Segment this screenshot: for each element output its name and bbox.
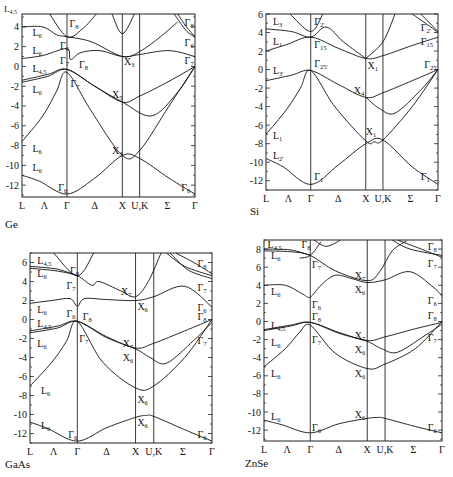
y-tick-label: -12 xyxy=(248,425,261,436)
y-tick-label: -8 xyxy=(19,390,27,401)
panel-caption-znse: ZnSe xyxy=(245,457,268,469)
plot-frame xyxy=(264,240,442,441)
band-curve xyxy=(314,240,341,246)
symmetry-point-label: L6 xyxy=(271,411,281,423)
symmetry-point-label: Γ1 xyxy=(421,171,430,183)
y-tick-label: 6 xyxy=(256,262,261,273)
symmetry-point-label: Γ15 xyxy=(421,36,433,48)
band-curve xyxy=(30,415,212,441)
x-tick-label: L xyxy=(261,444,267,455)
y-tick-label: -2 xyxy=(19,333,27,344)
panel-caption-gaas: GaAs xyxy=(5,458,30,470)
band-curve xyxy=(176,253,212,274)
y-tick-label: 4 xyxy=(14,21,19,32)
symmetry-point-label: X6 xyxy=(123,352,134,364)
x-tick-label: X xyxy=(364,444,372,455)
y-tick-label: -8 xyxy=(255,138,263,149)
band-curve xyxy=(22,66,195,116)
y-tick-label: -4 xyxy=(11,100,19,111)
x-tick-label: Λ xyxy=(284,444,292,455)
symmetry-point-label: X3 xyxy=(124,56,134,68)
symmetry-point-label: Γ25' xyxy=(314,58,327,70)
symmetry-point-label: L2' xyxy=(273,150,284,162)
symmetry-point-label: Γ2' xyxy=(421,22,431,34)
symmetry-point-label: Γ6 xyxy=(66,308,76,320)
symmetry-point-label: X6 xyxy=(355,284,366,296)
x-tick-label: Σ xyxy=(180,446,186,457)
y-tick-label: -12 xyxy=(14,428,27,439)
symmetry-point-label: Γ6 xyxy=(181,182,191,194)
y-tick-label: -12 xyxy=(250,175,263,186)
symmetry-point-label: L4,5 xyxy=(37,318,51,330)
y-tick-label: 2 xyxy=(22,295,27,306)
x-tick-label: Γ xyxy=(74,446,80,457)
symmetry-point-label: X7 xyxy=(355,330,366,342)
band-curve xyxy=(22,66,195,159)
symmetry-point-label: Γ7 xyxy=(70,78,80,90)
symmetry-point-label: X7 xyxy=(121,286,132,298)
symmetry-point-label: X1 xyxy=(367,60,377,72)
x-tick-label: Λ xyxy=(285,193,293,204)
symmetry-point-label: Γ6 xyxy=(197,429,207,441)
x-tick-label: Λ xyxy=(50,446,58,457)
x-tick-label: Σ xyxy=(164,200,170,211)
y-tick-label: -2 xyxy=(253,334,261,345)
x-tick-label: X xyxy=(119,200,127,211)
y-tick-label: -2 xyxy=(11,81,19,92)
y-tick-label: -10 xyxy=(14,409,27,420)
y-tick-label: 2 xyxy=(256,298,261,309)
x-tick-label: L xyxy=(263,193,269,204)
band-structure-figure: 420-2-4-6-8-10-12LΛΓΔXU,KΣΓΓ8L6Γ6L6Γ7Γ8L… xyxy=(0,0,453,477)
y-tick-label: -6 xyxy=(253,370,261,381)
y-tick-label: 2 xyxy=(258,46,263,57)
symmetry-point-label: L1 xyxy=(273,130,282,142)
y-tick-label: -4 xyxy=(253,352,261,363)
symmetry-point-label: L4,5 xyxy=(37,255,51,267)
band-curve xyxy=(112,14,134,34)
band-curve xyxy=(30,320,212,349)
symmetry-point-label: L6 xyxy=(32,45,42,57)
symmetry-point-label: Γ8 xyxy=(428,241,437,253)
symmetry-point-label: Γ7 xyxy=(428,332,438,344)
axis-top-label: L4,5 xyxy=(4,4,17,15)
x-tick-label: Δ xyxy=(336,444,343,455)
symmetry-point-label: Γ7 xyxy=(428,258,438,270)
symmetry-point-label: L4,5 xyxy=(271,320,285,332)
x-tick-label: Γ xyxy=(307,444,313,455)
symmetry-point-label: Γ8 xyxy=(70,18,79,30)
symmetry-point-label: Γ25' xyxy=(424,59,437,71)
band-curve xyxy=(266,138,438,184)
x-tick-label: U,K xyxy=(131,200,149,211)
x-tick-label: Δ xyxy=(103,446,110,457)
y-tick-label: -10 xyxy=(6,160,19,171)
x-tick-label: X xyxy=(132,446,140,457)
symmetry-point-label: L6 xyxy=(32,143,42,155)
x-tick-label: Σ xyxy=(411,444,417,455)
symmetry-point-label: Γ6 xyxy=(312,422,322,434)
symmetry-point-label: Γ8 xyxy=(185,17,194,29)
symmetry-point-label: L6 xyxy=(41,385,51,397)
y-tick-label: -10 xyxy=(248,407,261,418)
symmetry-point-label: L6 xyxy=(32,162,42,174)
band-curve xyxy=(366,70,438,115)
panel-caption-ge: Ge xyxy=(5,218,18,230)
symmetry-point-label: L6 xyxy=(32,27,42,39)
y-tick-label: -4 xyxy=(255,101,263,112)
panel-gaas: 6420-2-4-6-8-10-12LΛΓΔXU,KΣΓL4,5Γ8L6Γ7X7… xyxy=(14,253,215,457)
symmetry-point-label: Γ8 xyxy=(312,311,321,323)
y-tick-label: -6 xyxy=(11,120,19,131)
symmetry-point-label: Γ8 xyxy=(83,311,92,323)
panel-ge: 420-2-4-6-8-10-12LΛΓΔXU,KΣΓΓ8L6Γ6L6Γ7Γ8L… xyxy=(4,4,198,211)
band-curve xyxy=(30,320,212,391)
symmetry-point-label: X7 xyxy=(123,338,134,350)
symmetry-point-label: X6 xyxy=(355,368,366,380)
symmetry-point-label: Γ7 xyxy=(312,334,322,346)
symmetry-point-label: Γ6 xyxy=(185,37,195,49)
band-curve xyxy=(266,70,438,98)
symmetry-point-label: Γ7 xyxy=(185,55,195,67)
symmetry-point-label: Γ6 xyxy=(428,422,438,434)
y-tick-label: -4 xyxy=(19,352,27,363)
y-tick-label: 4 xyxy=(258,27,263,38)
panel-znse: 86420-2-4-6-8-10-12LΛΓΔXU,KΣΓL4,5Γ8L6Γ7X… xyxy=(248,239,445,455)
band-curve xyxy=(22,66,195,102)
